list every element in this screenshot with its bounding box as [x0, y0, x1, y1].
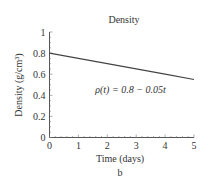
- y-tick-label: 0.8: [33, 48, 46, 59]
- y-axis-label: Density (g/cm³): [13, 53, 25, 116]
- y-tick-label: 0.4: [33, 90, 46, 101]
- x-tick-label: 2: [105, 140, 110, 151]
- x-tick-label: 4: [163, 140, 168, 151]
- chart-caption: b: [118, 167, 123, 178]
- y-tick-label: 1: [41, 27, 46, 38]
- chart-title: Density: [108, 14, 139, 25]
- equation-annotation: ρ(t) = 0.8 − 0.05t: [94, 84, 166, 96]
- x-tick-label: 5: [192, 140, 197, 151]
- y-tick-label: 0: [41, 132, 46, 143]
- x-tick-label: 0: [47, 140, 52, 151]
- x-tick-label: 1: [76, 140, 81, 151]
- x-axis-label: Time (days): [96, 153, 144, 165]
- density-chart: Density 00.20.40.60.81 012345 ρ(t) = 0.8…: [0, 0, 210, 183]
- y-tick-labels: 00.20.40.60.81: [33, 27, 46, 144]
- x-tick-label: 3: [134, 140, 139, 151]
- y-axis-ticks: [50, 32, 53, 138]
- y-tick-label: 0.6: [33, 69, 46, 80]
- y-tick-label: 0.2: [33, 111, 46, 122]
- density-line: [50, 53, 195, 79]
- x-tick-labels: 012345: [47, 140, 197, 151]
